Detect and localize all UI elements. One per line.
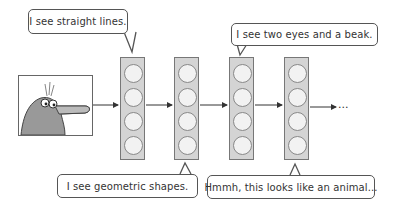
neuron bbox=[124, 64, 143, 83]
neuron bbox=[288, 112, 307, 131]
speech-bubble-layer-4: Hmmh, this looks like an animal... bbox=[207, 175, 375, 199]
platypus-icon bbox=[19, 76, 92, 135]
layer-3 bbox=[229, 57, 254, 160]
bubble-text: Hmmh, this looks like an animal... bbox=[204, 182, 377, 193]
neuron bbox=[124, 88, 143, 107]
continuation-ellipsis: ... bbox=[338, 98, 349, 111]
layer-2 bbox=[174, 57, 199, 160]
neuron bbox=[124, 136, 143, 155]
neuron bbox=[178, 112, 197, 131]
neuron bbox=[178, 64, 197, 83]
neuron bbox=[288, 64, 307, 83]
bubble-text: I see straight lines. bbox=[29, 16, 126, 27]
speech-bubble-layer-3: I see two eyes and a beak. bbox=[231, 23, 378, 46]
neuron bbox=[178, 136, 197, 155]
layer-4 bbox=[284, 57, 309, 160]
neuron bbox=[233, 64, 252, 83]
neuron bbox=[124, 112, 143, 131]
input-image bbox=[18, 75, 93, 136]
neuron bbox=[288, 136, 307, 155]
bubble-text: I see geometric shapes. bbox=[67, 181, 189, 192]
neuron bbox=[233, 112, 252, 131]
neuron bbox=[178, 88, 197, 107]
speech-bubble-layer-2: I see geometric shapes. bbox=[57, 174, 198, 198]
neuron bbox=[233, 136, 252, 155]
neuron bbox=[288, 88, 307, 107]
speech-bubble-layer-1: I see straight lines. bbox=[28, 9, 128, 34]
neuron bbox=[233, 88, 252, 107]
layer-1 bbox=[120, 57, 145, 160]
bubble-text: I see two eyes and a beak. bbox=[236, 29, 372, 40]
